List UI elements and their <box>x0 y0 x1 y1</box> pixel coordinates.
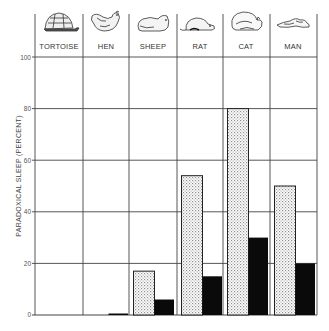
rat-icon <box>180 18 215 30</box>
y-axis-title: PARADOXICAL SLEEP (PERCENT) <box>15 115 23 237</box>
solid-bar-sheep <box>155 300 175 315</box>
man-icon <box>277 19 309 28</box>
category-label: RAT <box>192 42 207 51</box>
category-label: SHEEP <box>140 42 166 51</box>
y-tick: 0 <box>27 311 31 318</box>
sheep-icon <box>138 15 169 31</box>
y-tick: 60 <box>24 157 32 164</box>
solid-bar-cat <box>249 238 269 315</box>
hen-icon <box>91 11 119 31</box>
header-labels: TORTOISE HEN SHEEP RAT CAT MAN <box>39 42 301 51</box>
sleep-chart: TORTOISE HEN SHEEP RAT CAT MAN 0 20 40 6… <box>0 0 329 331</box>
category-label: CAT <box>238 42 253 51</box>
y-tick: 40 <box>24 208 32 215</box>
cat-icon <box>232 12 262 30</box>
stippled-bar-sheep <box>134 271 155 315</box>
category-label: HEN <box>98 42 114 51</box>
category-label: TORTOISE <box>39 42 79 51</box>
solid-bar-man <box>296 263 316 315</box>
stippled-bar-man <box>275 186 296 315</box>
solid-bar-rat <box>203 276 223 315</box>
category-label: MAN <box>284 42 301 51</box>
solid-bar-hen <box>109 314 129 316</box>
y-tick: 80 <box>24 105 32 112</box>
tortoise-icon <box>44 13 79 31</box>
stippled-bar-cat <box>228 109 249 315</box>
stippled-bar-rat <box>182 176 203 315</box>
y-tick: 20 <box>24 260 32 267</box>
y-tick: 100 <box>20 54 31 61</box>
